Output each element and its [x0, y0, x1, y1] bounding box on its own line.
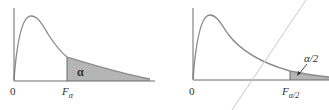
left-origin-label: 0 [10, 85, 16, 97]
right-origin-label: 0 [189, 85, 195, 97]
right-area-label: α/2 [304, 52, 319, 64]
left-critical-label: Fα [61, 85, 74, 100]
right-critical-subscript: α/2 [289, 91, 299, 100]
right-panel: α/2 0 Fα/2 [189, 8, 329, 100]
f-distribution-figure: α 0 Fα α/2 0 Fα/2 [0, 0, 329, 110]
left-panel: α 0 Fα [10, 8, 155, 100]
left-area-label: α [77, 65, 84, 79]
left-critical-subscript: α [69, 91, 74, 100]
right-critical-label: Fα/2 [281, 85, 299, 100]
right-density-curve [193, 15, 329, 79]
